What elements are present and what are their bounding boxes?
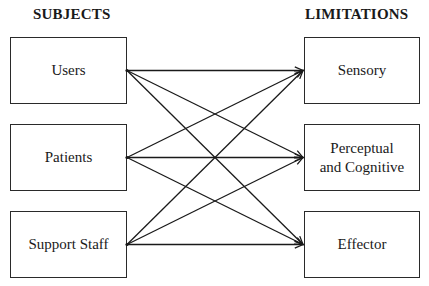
- connection-origin-dot: [125, 156, 128, 159]
- connection-origin-dot: [125, 243, 128, 246]
- connection-origin-dot: [125, 69, 128, 72]
- connection-lines: [0, 0, 429, 286]
